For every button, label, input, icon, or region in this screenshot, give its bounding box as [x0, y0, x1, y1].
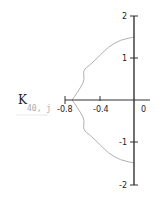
x-tick-label: 0: [141, 105, 146, 114]
y-tick-label: -2: [119, 181, 127, 190]
y-tick-label: 1: [122, 54, 127, 63]
x-tick-label: -0.8: [57, 105, 73, 114]
x-tick-label: -0.4: [93, 105, 109, 114]
y-tick-label: 2: [122, 12, 127, 21]
y-tick-label: -1: [119, 138, 127, 147]
y-axis-label-subscript: 40, j: [27, 104, 51, 113]
plot-area: K 40, j -0.8 -0.4 0 2 1 -1 -2: [0, 0, 163, 202]
